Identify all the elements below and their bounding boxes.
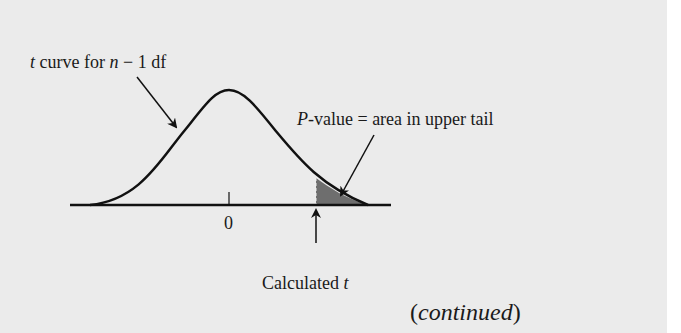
pvalue-label: P-value = area in upper tail: [297, 110, 494, 128]
t-curve-label: t curve for n − 1 df: [30, 53, 166, 71]
close-paren: ): [513, 299, 521, 325]
pvalue-label-text: -value = area in upper tail: [308, 109, 494, 129]
curve-label-df-text: − 1 df: [118, 52, 166, 72]
curve-label-arrow: [137, 77, 176, 127]
zero-tick-label: 0: [224, 214, 233, 232]
calculated-t-label: Calculated t: [262, 274, 348, 292]
calculated-text: Calculated: [262, 273, 343, 293]
open-paren: (: [410, 299, 418, 325]
pvalue-label-arrow: [341, 135, 374, 195]
continued-text: continued: [418, 299, 513, 325]
p-variable: P: [297, 109, 308, 129]
curve-label-text: curve for: [35, 52, 109, 72]
t-variable: t: [343, 273, 348, 293]
continued-label: (continued): [410, 300, 521, 324]
